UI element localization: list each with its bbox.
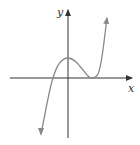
cubic-curve	[41, 18, 107, 134]
graph-canvas: y x	[0, 0, 140, 145]
curve-bottom-arrow-icon	[38, 128, 44, 136]
x-axis-label: x	[128, 82, 135, 95]
y-axis-label: y	[56, 6, 64, 19]
